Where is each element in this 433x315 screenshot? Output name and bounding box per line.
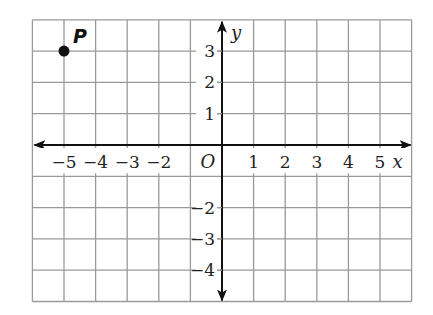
y-tick-label: −4: [190, 260, 215, 280]
point-label: P: [73, 25, 87, 47]
x-tick-label: −5: [51, 152, 76, 172]
x-tick-label: 1: [248, 152, 259, 172]
coordinate-plane: −5−4−3−212345321−2−3−4xyO P: [0, 0, 433, 315]
y-tick-label: −3: [190, 229, 215, 249]
x-tick-label: −3: [115, 152, 140, 172]
x-axis-label: x: [393, 151, 403, 172]
x-tick-label: −4: [83, 152, 108, 172]
y-tick-label: 2: [204, 72, 215, 92]
x-tick-label: 3: [311, 152, 322, 172]
origin-label: O: [201, 151, 216, 172]
y-tick-label: −2: [190, 198, 215, 218]
x-tick-label: 4: [343, 152, 354, 172]
x-tick-label: −2: [146, 152, 171, 172]
y-axis-label: y: [230, 22, 242, 43]
x-tick-label: 5: [375, 152, 386, 172]
y-tick-label: 1: [204, 104, 215, 124]
y-tick-label: 3: [204, 41, 215, 61]
point-marker: [59, 46, 70, 57]
plotted-points: P: [59, 25, 88, 57]
x-tick-label: 2: [280, 152, 291, 172]
